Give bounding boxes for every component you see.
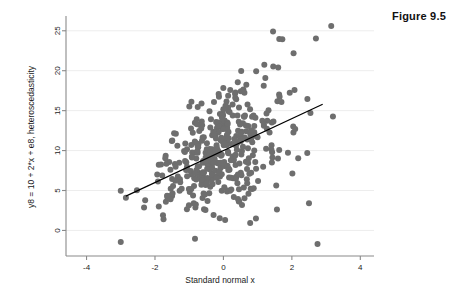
scatter-point [158, 162, 164, 168]
scatter-point [204, 140, 210, 146]
scatter-point [216, 91, 222, 97]
scatter-point [216, 169, 222, 175]
scatter-point [142, 197, 148, 203]
scatter-point [264, 110, 270, 116]
scatter-point [172, 178, 178, 184]
scatter-point [184, 173, 190, 179]
scatter-point [222, 217, 228, 223]
scatter-point [218, 160, 224, 166]
y-tick-label: 25 [53, 26, 62, 35]
y-tick-label: 0 [53, 228, 62, 233]
scatter-point [233, 152, 239, 158]
scatter-point [154, 171, 160, 177]
scatter-point [217, 215, 223, 221]
scatter-point [205, 198, 211, 204]
scatter-point [241, 114, 247, 120]
scatter-point [251, 185, 257, 191]
scatter-point [211, 99, 217, 105]
scatter-point [170, 190, 176, 196]
scatter-point [211, 131, 217, 137]
scatter-point [313, 35, 319, 41]
scatter-point [232, 95, 238, 101]
scatter-point [161, 216, 167, 222]
scatter-point [240, 144, 246, 150]
scatter-point [179, 186, 185, 192]
x-axis-title: Standard normal x [185, 275, 255, 285]
scatter-point [262, 75, 268, 81]
scatter-plot-svg: 0510152025-4-2024 Standard normal xy8 = … [18, 6, 380, 287]
scatter-point [200, 169, 206, 175]
scatter-point [118, 239, 124, 245]
scatter-point [141, 205, 147, 211]
scatter-point [328, 23, 334, 29]
scatter-point [204, 180, 210, 186]
scatter-point [270, 63, 276, 69]
scatter-point [238, 151, 244, 157]
scatter-point [330, 114, 336, 120]
x-tick-label: 0 [221, 263, 226, 272]
scatter-point [304, 150, 310, 156]
scatter-point [228, 175, 234, 181]
scatter-point [232, 90, 238, 96]
scatter-point [225, 121, 231, 127]
scatter-point [253, 68, 259, 74]
scatter-point [275, 155, 281, 161]
scatter-point [291, 50, 297, 56]
scatter-point [220, 85, 226, 91]
y-axis-title: y8 = 10 + 2*x + e8, heteroscedasticity [26, 65, 36, 208]
x-tick-label: -4 [83, 263, 91, 272]
scatter-point [188, 99, 194, 105]
scatter-point [292, 87, 298, 93]
scatter-point [275, 65, 281, 71]
scatter-point [235, 79, 241, 85]
scatter-point [234, 113, 240, 119]
scatter-point [224, 98, 230, 104]
y-tick-label: 20 [53, 66, 62, 75]
scatter-point [243, 123, 249, 129]
scatter-point [292, 126, 298, 132]
scatter-point [273, 182, 279, 188]
scatter-point [251, 148, 257, 154]
scatter-point [118, 188, 124, 194]
figure-page: 0510152025-4-2024 Standard normal xy8 = … [0, 0, 464, 303]
scatter-point [306, 200, 312, 206]
scatter-point [253, 215, 259, 221]
scatter-point [173, 164, 179, 170]
y-tick-label: 15 [53, 106, 62, 115]
scatter-point [162, 155, 168, 161]
scatter-point [252, 115, 258, 121]
scatter-point [167, 167, 173, 173]
scatter-point [241, 195, 247, 201]
scatter-point [225, 93, 231, 99]
scatter-point [244, 166, 250, 172]
scatter-point [208, 116, 214, 122]
scatter-point [193, 176, 199, 182]
scatter-point [206, 190, 212, 196]
scatter-point [194, 121, 200, 127]
x-tick-label: 2 [290, 263, 295, 272]
scatter-point [253, 166, 259, 172]
scatter-point [194, 148, 200, 154]
scatter-point [248, 127, 254, 133]
scatter-point [195, 164, 201, 170]
scatter-point [295, 155, 301, 161]
scatter-point [236, 105, 242, 111]
scatter-point [252, 159, 258, 165]
scatter-point [174, 143, 180, 149]
scatter-point [278, 99, 284, 105]
y-tick-label: 5 [53, 188, 62, 193]
scatter-point [236, 198, 242, 204]
scatter-point [261, 62, 267, 68]
scatter-point [263, 146, 269, 152]
scatter-point [238, 68, 244, 74]
scatter-point [276, 36, 282, 42]
scatter-point [315, 241, 321, 247]
scatter-point [199, 101, 205, 107]
scatter-point [231, 194, 237, 200]
scatter-point [156, 203, 162, 209]
scatter-point [277, 94, 283, 100]
scatter-point [218, 135, 224, 141]
scatter-point [225, 150, 231, 156]
scatter-point [182, 141, 188, 147]
scatter-point [202, 207, 208, 213]
